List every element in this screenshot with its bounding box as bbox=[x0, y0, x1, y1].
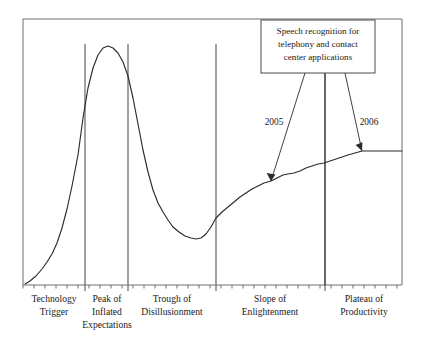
callout-line-3: center applications bbox=[284, 52, 353, 62]
x-axis-ticks bbox=[23, 285, 397, 291]
phase-label-slope-of-enlightenment: Slope of bbox=[254, 293, 287, 304]
phase-label-peak-of-inflated-expectations: Peak of bbox=[92, 293, 122, 304]
callout-line-2: telephony and contact bbox=[278, 39, 358, 49]
phase-label-trough-of-disillusionment: Disillusionment bbox=[141, 306, 203, 317]
phase-dividers bbox=[85, 44, 325, 285]
phase-label-plateau-of-productivity: Productivity bbox=[340, 306, 388, 317]
year-label-2005: 2005 bbox=[265, 117, 284, 127]
phase-label-technology-trigger: Technology bbox=[31, 293, 76, 304]
arrowhead-2006 bbox=[356, 142, 363, 151]
phase-labels: TechnologyTriggerPeak ofInflatedExpectat… bbox=[31, 293, 387, 330]
phase-label-plateau-of-productivity: Plateau of bbox=[345, 293, 384, 304]
callout-line-1: Speech recognition for bbox=[277, 26, 360, 36]
year-label-2006: 2006 bbox=[360, 117, 379, 127]
phase-label-peak-of-inflated-expectations: Inflated bbox=[92, 306, 122, 317]
callout-box: Speech recognition for telephony and con… bbox=[261, 20, 375, 73]
leader-line-2006 bbox=[345, 73, 362, 151]
callout-leader-lines bbox=[267, 73, 363, 285]
phase-label-technology-trigger: Trigger bbox=[40, 306, 69, 317]
year-annotations: 20052006 bbox=[265, 117, 379, 127]
phase-label-peak-of-inflated-expectations: Expectations bbox=[82, 319, 132, 330]
phase-label-trough-of-disillusionment: Trough of bbox=[153, 293, 192, 304]
leader-line-2005 bbox=[271, 73, 305, 181]
hype-cycle-chart: 20052006 Speech recognition for telephon… bbox=[0, 0, 422, 343]
hype-cycle-curve bbox=[25, 46, 402, 284]
hype-cycle-figure: 20052006 Speech recognition for telephon… bbox=[0, 0, 422, 343]
phase-label-slope-of-enlightenment: Enlightenment bbox=[242, 306, 299, 317]
